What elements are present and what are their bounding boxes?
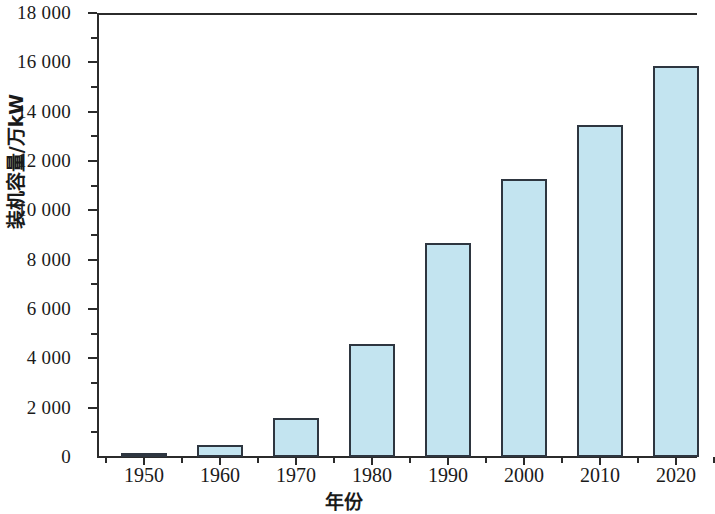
y-axis-tick-major [88,160,97,162]
x-axis-tick-label: 1970 [276,464,316,487]
bar-1990 [425,243,471,457]
y-axis-tick-major [88,209,97,211]
y-axis-tick-major [88,259,97,261]
bar-2020 [653,66,699,457]
bar-1980 [349,344,395,457]
y-axis-ticks [78,13,97,457]
y-axis-tick-label: 2 000 [27,397,71,419]
y-axis-tick-major [88,308,97,310]
y-axis-tick-major [88,407,97,409]
y-axis-tick-label: 8 000 [27,249,71,271]
y-axis-tick-label: 16 000 [17,51,71,73]
x-axis-tick-minor [485,457,487,463]
y-axis-tick-major [88,12,97,14]
x-axis-tick-minor [333,457,335,463]
x-axis-title: 年份 [0,487,688,514]
y-axis-tick-label: 18 000 [17,2,71,24]
x-axis-tick-minor [257,457,259,463]
x-axis-tick-minor [637,457,639,463]
x-axis-tick-label: 2000 [504,464,544,487]
bars-layer [97,13,697,457]
bar-2000 [501,179,547,457]
y-axis-tick-label: 4 000 [27,347,71,369]
x-axis-tick-minor [181,457,183,463]
y-axis-tick-label: 6 000 [27,298,71,320]
y-axis-tick-major [88,357,97,359]
bar-1960 [197,445,243,457]
y-axis-tick-major [88,111,97,113]
x-axis-tick-label: 1990 [428,464,468,487]
x-axis-tick-minor [409,457,411,463]
x-axis-tick-minor [561,457,563,463]
bar-1970 [273,418,319,457]
x-axis-tick-label: 2010 [580,464,620,487]
x-axis-tick-label: 2020 [656,464,696,487]
y-axis-title: 装机容量/万kW [1,72,28,252]
x-axis-tick-label: 1980 [352,464,392,487]
y-axis-tick-label: 0 [61,446,71,468]
bar-2010 [577,125,623,457]
x-axis-tick-label: 1950 [124,464,164,487]
x-axis-tick-minor [105,457,107,463]
y-axis-tick-major [88,61,97,63]
x-axis-tick-label: 1960 [200,464,240,487]
